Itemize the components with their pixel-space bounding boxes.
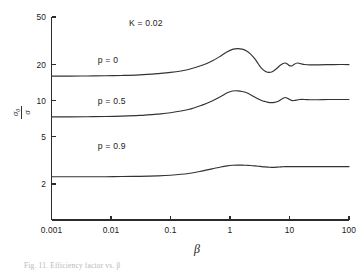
y-axis-title: σ₀ σ: [10, 106, 32, 119]
y-axis-ticks: 25102050: [36, 12, 56, 189]
curve-series-0: [52, 49, 350, 77]
x-tick-label: 0.01: [103, 225, 120, 235]
x-axis-ticks: 0.0010.010.1110100: [41, 216, 357, 235]
curve-series-1: [52, 91, 350, 117]
chart-annotations: K = 0.02p = 0p = 0.5p = 0.9: [98, 18, 163, 151]
y-tick-label: 50: [36, 12, 46, 22]
y-tick-label: 2: [41, 179, 46, 189]
figure-caption: Fig. 11. Efficiency factor vs. β: [24, 261, 120, 270]
x-tick-label: 100: [342, 225, 357, 235]
annotation-1: p = 0: [98, 55, 118, 65]
x-tick-label: 1: [228, 225, 233, 235]
annotation-0: K = 0.02: [129, 18, 163, 28]
y-tick-label: 5: [41, 132, 46, 142]
curve-series-2: [52, 165, 350, 177]
y-axis-title-numerator: σ₀: [10, 109, 20, 117]
axes-group: [52, 17, 350, 220]
x-tick-label: 10: [285, 225, 295, 235]
annotation-3: p = 0.9: [98, 141, 126, 151]
data-curves: [52, 49, 350, 177]
y-tick-label: 20: [36, 60, 46, 70]
x-axis-title: β: [193, 242, 200, 256]
annotation-2: p = 0.5: [98, 96, 126, 106]
y-axis-title-denominator: σ: [22, 110, 32, 115]
x-tick-label: 0.001: [41, 225, 63, 235]
x-tick-label: 0.1: [165, 225, 177, 235]
y-tick-label: 10: [36, 96, 46, 106]
